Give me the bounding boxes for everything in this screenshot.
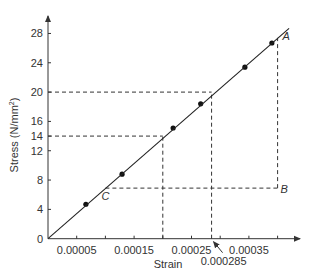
- x-axis-label: Strain: [154, 258, 183, 270]
- point-label-b: B: [281, 183, 288, 195]
- y-tick-label: 28: [31, 27, 43, 39]
- pointer-arrow-icon: [214, 242, 223, 253]
- strain-value-annotation: 0.000285: [201, 255, 247, 267]
- y-tick-label: 4: [37, 203, 43, 215]
- y-axis-label: Stress (N/mm2): [8, 98, 20, 173]
- y-tick-label: 20: [31, 86, 43, 98]
- y-tick-label: 24: [31, 57, 43, 69]
- annotations: ABC0.000285: [101, 30, 290, 267]
- y-tick-label: 0: [37, 233, 43, 245]
- point-label-a: A: [282, 30, 290, 42]
- x-tick-label: 0.00005: [57, 244, 97, 256]
- fit-line: [48, 28, 289, 238]
- data-series: [48, 28, 289, 238]
- y-tick-label: 8: [37, 174, 43, 186]
- stress-strain-chart: 0481214162024280.000050.000150.000250.00…: [0, 0, 311, 280]
- y-tick-label: 14: [31, 130, 43, 142]
- y-tick-label: 12: [31, 145, 43, 157]
- y-tick-label: 16: [31, 115, 43, 127]
- x-tick-label: 0.00015: [114, 244, 154, 256]
- point-label-c: C: [101, 190, 109, 202]
